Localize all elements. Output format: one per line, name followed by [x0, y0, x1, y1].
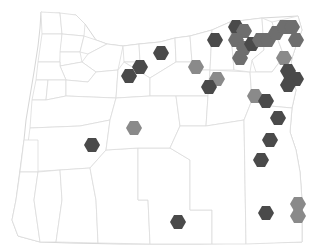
county-sherman	[175, 36, 192, 62]
county-crook	[176, 96, 208, 126]
county-jackson	[56, 168, 98, 243]
county-clatsop	[41, 12, 62, 34]
county-columbia	[60, 13, 85, 36]
county-hood-river	[123, 44, 140, 62]
county-lincoln	[32, 80, 48, 100]
oregon-map	[0, 0, 324, 252]
county-deschutes	[106, 96, 180, 150]
county-coos	[20, 140, 38, 172]
county-tillamook	[38, 34, 62, 62]
